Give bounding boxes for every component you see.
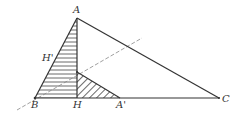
point-c bbox=[218, 97, 220, 99]
label-a: A bbox=[73, 5, 80, 15]
label-h-prime: H' bbox=[42, 53, 53, 63]
label-b: B bbox=[31, 100, 38, 110]
label-a-prime: A' bbox=[116, 100, 126, 110]
label-h: H bbox=[73, 100, 82, 110]
point-p bbox=[76, 71, 78, 73]
geometry-figure: A H' B H A' C bbox=[0, 0, 238, 123]
label-c: C bbox=[222, 94, 230, 104]
